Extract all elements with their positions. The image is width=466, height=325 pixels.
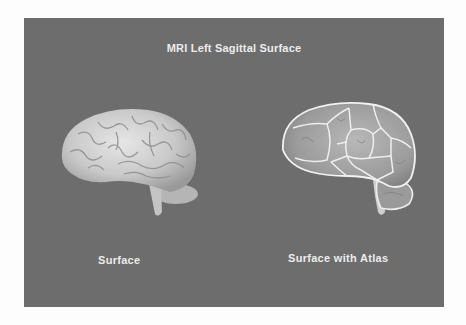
figure-panel: MRI Left Sagittal Surface	[24, 18, 444, 307]
surface-with-atlas-label: Surface with Atlas	[288, 252, 388, 264]
figure-title: MRI Left Sagittal Surface	[24, 42, 444, 54]
brain-surface-image	[58, 104, 198, 219]
brain-atlas-image	[277, 100, 417, 215]
surface-label: Surface	[98, 254, 140, 266]
